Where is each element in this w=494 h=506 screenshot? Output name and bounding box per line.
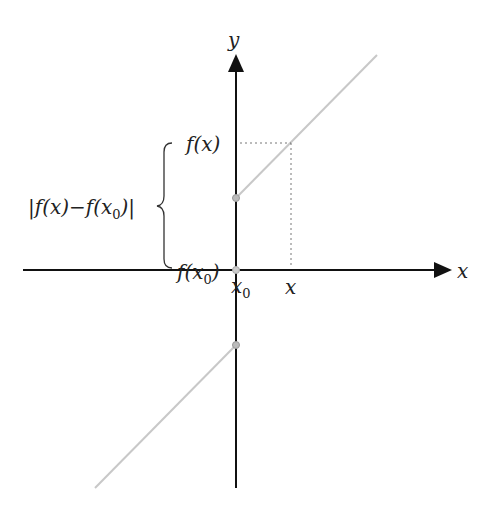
fx0-label-sub: 0: [203, 272, 211, 287]
difference-label-main: |f(x)−f(x: [28, 195, 112, 219]
discontinuity-diagram: y x f(x) f(x0) x0 x |f(x)−f(x0)|: [0, 0, 494, 506]
x-axis-label: x: [457, 261, 468, 281]
upper-branch-line: [236, 55, 377, 198]
fx0-label-main: f(x: [177, 260, 203, 284]
fx0-label: f(x0): [177, 262, 220, 286]
x0-tick-sub: 0: [242, 286, 250, 301]
difference-label-close: )|: [121, 195, 136, 219]
difference-label: |f(x)−f(x0)|: [28, 197, 135, 221]
y-axis-label: y: [228, 30, 239, 50]
y-axis-arrow-icon: [228, 54, 244, 72]
x0-tick-label: x0: [231, 276, 251, 300]
difference-label-sub: 0: [112, 207, 120, 222]
x-tick-label: x: [285, 277, 296, 297]
x-axis-arrow-icon: [434, 262, 452, 278]
x0-tick-main: x: [231, 274, 242, 298]
fx0-label-close: ): [212, 260, 220, 284]
origin-point: [233, 267, 240, 274]
lower-branch-line: [95, 345, 236, 488]
lower-endpoint: [233, 342, 240, 349]
fx-label: f(x): [186, 134, 220, 154]
difference-brace: [157, 143, 172, 268]
upper-endpoint: [233, 195, 240, 202]
plot-svg: [0, 0, 494, 506]
